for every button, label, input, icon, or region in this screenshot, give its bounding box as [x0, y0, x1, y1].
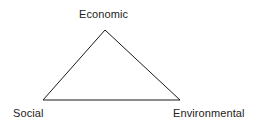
label-environmental: Environmental	[173, 108, 245, 119]
label-economic: Economic	[79, 9, 128, 20]
sustainability-triangle-diagram: Economic Social Environmental	[0, 0, 267, 126]
label-social: Social	[13, 108, 44, 119]
